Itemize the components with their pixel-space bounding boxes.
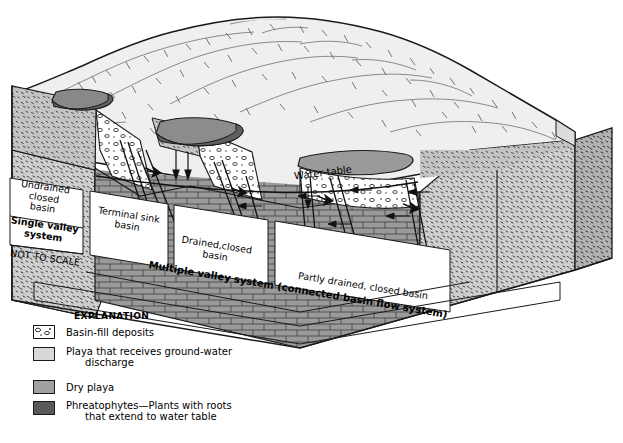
legend-swatch-phreatophytes [33, 401, 55, 415]
legend-swatch-dry-playa [33, 380, 55, 394]
figure-block-diagram: Water table Undrained closed basin Singl… [0, 0, 623, 443]
legend-swatch-basin-fill [33, 325, 55, 339]
legend-title: EXPLANATION [74, 311, 149, 321]
legend-label-phreatophytes: Phreatophytes—Plants with roots that ext… [66, 400, 232, 422]
legend-label-playa-recharge: Playa that receives ground-water dischar… [66, 346, 232, 368]
basin-fill-swatch-pattern [34, 326, 54, 338]
legend-label-basin-fill: Basin-fill deposits [66, 327, 154, 338]
legend-swatch-playa-recharge [33, 347, 55, 361]
legend-label-dry-playa: Dry playa [66, 382, 114, 393]
